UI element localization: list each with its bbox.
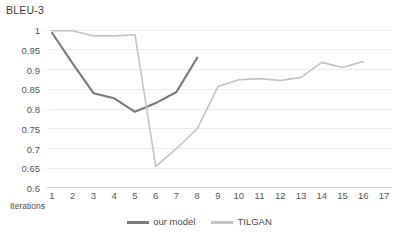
y-tick-label: 0.9 [27, 64, 40, 75]
y-tick-label: 0.6 [27, 183, 40, 194]
x-tick-label: 17 [379, 190, 390, 202]
y-tick-label: 0.75 [22, 123, 41, 134]
chart-legend: our modelTILGAN [0, 216, 399, 228]
y-tick-label: 0.65 [22, 163, 41, 174]
y-axis: 0.60.650.70.750.80.850.90.951 [0, 22, 44, 196]
x-tick-label: 3 [91, 190, 96, 202]
x-tick-label: 1 [49, 190, 54, 202]
y-tick-label: 0.85 [22, 84, 41, 95]
x-axis-title: Iterations [10, 201, 45, 212]
series-layer [46, 30, 392, 188]
x-tick-label: 12 [275, 190, 286, 202]
x-tick-label: 15 [337, 190, 348, 202]
x-tick-label: 9 [215, 190, 220, 202]
x-tick-label: 8 [195, 190, 200, 202]
x-tick-label: 16 [358, 190, 369, 202]
y-tick-label: 0.95 [22, 44, 41, 55]
y-tick-label: 0.8 [27, 104, 40, 115]
legend-item[interactable]: TILGAN [211, 216, 271, 228]
x-tick-label: 2 [70, 190, 75, 202]
x-tick-label: 6 [153, 190, 158, 202]
x-axis: 1234567891011121314151617 [46, 190, 392, 204]
legend-label: TILGAN [237, 216, 271, 228]
legend-label: our model [153, 216, 195, 228]
x-tick-label: 7 [174, 190, 179, 202]
legend-swatch-icon [211, 221, 233, 224]
x-tick-label: 13 [296, 190, 307, 202]
y-tick-label: 0.7 [27, 143, 40, 154]
x-tick-label: 11 [255, 190, 265, 202]
x-tick-label: 5 [132, 190, 137, 202]
x-tick-label: 4 [112, 190, 117, 202]
series-line-our-model [52, 33, 197, 112]
legend-item[interactable]: our model [127, 216, 195, 228]
legend-swatch-icon [127, 221, 149, 224]
chart-title: BLEU-3 [6, 4, 44, 17]
x-tick-label: 14 [316, 190, 327, 202]
series-line-tilgan [52, 31, 363, 166]
y-tick-label: 1 [35, 25, 40, 36]
bleu3-line-chart: BLEU-3 0.60.650.70.750.80.850.90.951 123… [0, 0, 399, 237]
x-tick-label: 10 [233, 190, 244, 202]
plot-area [46, 30, 392, 188]
